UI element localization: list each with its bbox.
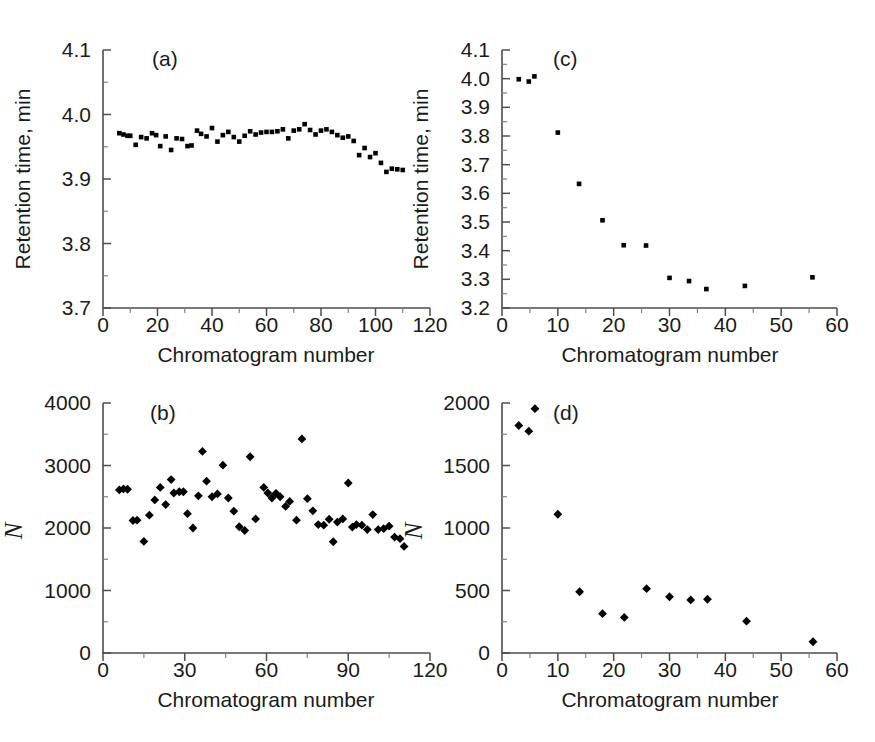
data-point — [330, 130, 335, 135]
data-point — [117, 131, 122, 136]
x-ticklabel: 90 — [337, 658, 360, 681]
data-point — [232, 135, 237, 140]
data-point — [202, 477, 211, 486]
data-point — [810, 275, 815, 280]
data-point — [704, 287, 709, 292]
data-point — [204, 134, 209, 139]
x-ticklabel: 30 — [173, 658, 196, 681]
data-point — [303, 494, 312, 503]
data-point — [308, 128, 313, 133]
y-axis-title-d: N — [400, 521, 427, 540]
data-point — [183, 509, 192, 518]
x-ticklabel: 50 — [769, 658, 792, 681]
data-point — [575, 587, 584, 596]
data-point — [319, 128, 324, 133]
data-point — [324, 127, 329, 132]
x-axis-title-a: Chromatogram number — [157, 343, 374, 366]
panel-label-d: (d) — [553, 401, 579, 424]
y-ticklabel: 0 — [79, 641, 91, 664]
data-point — [264, 130, 269, 135]
data-point — [341, 135, 346, 140]
data-point — [275, 129, 280, 134]
data-point — [139, 537, 148, 546]
y-ticklabel: 4.0 — [461, 67, 490, 90]
y-ticklabel: 2000 — [443, 391, 490, 414]
data-point — [251, 515, 260, 524]
data-point — [621, 243, 626, 248]
data-point — [150, 131, 155, 136]
data-point — [703, 595, 712, 604]
x-ticklabel: 60 — [825, 658, 848, 681]
y-ticklabel: 3.5 — [461, 210, 490, 233]
data-point — [253, 132, 258, 137]
data-point — [199, 132, 204, 137]
data-point — [185, 144, 190, 149]
data-point — [281, 127, 286, 132]
x-ticklabel: 10 — [546, 313, 569, 336]
y-ticklabel: 4.1 — [62, 38, 91, 61]
data-point — [313, 132, 318, 137]
figure-canvas: 3.73.83.94.04.1 020406080100120 (a) Rete… — [0, 0, 875, 742]
y-ticklabel: 1500 — [443, 454, 490, 477]
y-ticklabels-a: 3.73.83.94.04.1 — [62, 38, 91, 319]
y-ticklabels-d: 0500100015002000 — [443, 391, 490, 664]
data-point — [667, 276, 672, 281]
data-point — [362, 146, 367, 151]
x-ticklabel: 40 — [714, 313, 737, 336]
data-point — [189, 524, 198, 533]
data-points-c — [516, 74, 814, 291]
data-point — [154, 133, 159, 138]
axis-lines-d — [502, 403, 837, 653]
x-ticklabel: 20 — [602, 313, 625, 336]
data-point — [384, 170, 389, 175]
data-point — [598, 609, 607, 618]
data-point — [128, 133, 133, 138]
data-point — [644, 243, 649, 248]
data-point — [150, 495, 159, 504]
panel-label-a: (a) — [152, 47, 178, 70]
data-point — [158, 144, 163, 149]
data-point — [210, 126, 215, 131]
x-ticklabel: 0 — [97, 658, 109, 681]
data-point — [532, 74, 537, 79]
data-point — [742, 617, 751, 626]
x-ticklabel: 30 — [658, 313, 681, 336]
data-point — [524, 427, 533, 436]
data-point — [139, 135, 144, 140]
data-point — [194, 491, 203, 500]
x-ticklabel: 0 — [97, 313, 109, 336]
data-point — [167, 475, 176, 484]
y-ticklabel: 3.7 — [461, 153, 490, 176]
data-point — [516, 77, 521, 82]
data-point — [221, 133, 226, 138]
data-point — [286, 136, 291, 141]
data-point — [335, 133, 340, 138]
data-point — [161, 500, 170, 509]
panel-a-plot: 3.73.83.94.04.1 020406080100120 (a) Rete… — [0, 0, 440, 372]
data-point — [395, 167, 400, 172]
x-ticklabel: 0 — [496, 313, 508, 336]
panel-d-axes: 0500100015002000 0102030405060 — [443, 391, 848, 681]
y-ticks-a — [103, 50, 111, 308]
data-point — [531, 404, 540, 413]
panel-c: 3.23.33.43.53.63.73.83.94.04.1 010203040… — [400, 0, 875, 372]
data-points-a — [117, 122, 405, 174]
x-ticklabel: 40 — [714, 658, 737, 681]
y-ticklabel: 1000 — [44, 579, 91, 602]
data-point — [270, 130, 275, 135]
x-ticklabel: 60 — [255, 658, 278, 681]
data-point — [174, 136, 179, 141]
y-ticklabel: 3.9 — [461, 95, 490, 118]
data-point — [121, 132, 126, 137]
data-point — [553, 510, 562, 519]
x-ticklabels-b: 0306090120 — [97, 658, 447, 681]
y-ticklabel: 3.8 — [62, 232, 91, 255]
y-ticklabel: 2000 — [44, 516, 91, 539]
x-ticklabel: 60 — [825, 313, 848, 336]
x-ticklabel: 20 — [146, 313, 169, 336]
data-point — [180, 137, 185, 142]
panel-a-axes: 3.73.83.94.04.1 020406080100120 — [62, 38, 448, 336]
data-point — [556, 130, 561, 135]
data-point — [379, 161, 384, 166]
data-point — [292, 516, 301, 525]
